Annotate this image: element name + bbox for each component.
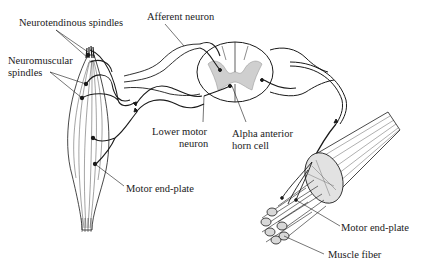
reflex-arc-diagram: Neurotendinous spindles Afferent neuron … xyxy=(0,0,428,269)
label-alpha-anterior-horn-cell-line1: Alpha anterior xyxy=(232,128,293,139)
label-afferent-neuron: Afferent neuron xyxy=(147,11,214,22)
label-motor-end-plate-left: Motor end-plate xyxy=(126,183,194,194)
label-alpha-anterior-horn-cell-line2: horn cell xyxy=(232,140,269,151)
whole-muscle xyxy=(68,46,109,232)
label-neurotendinous-spindles: Neurotendinous spindles xyxy=(19,17,123,28)
label-muscle-fiber: Muscle fiber xyxy=(328,249,381,260)
label-neuromuscular-spindles-line1: Neuromuscular xyxy=(8,55,73,66)
label-neuromuscular-spindles-line2: spindles xyxy=(8,67,42,78)
spinal-cord-cross-section xyxy=(197,42,334,102)
label-lower-motor-neuron-line2: neuron xyxy=(179,138,208,149)
label-motor-end-plate-right: Motor end-plate xyxy=(341,222,409,233)
label-lower-motor-neuron-line1: Lower motor xyxy=(152,126,207,137)
left-nerve-trunk xyxy=(124,44,204,112)
